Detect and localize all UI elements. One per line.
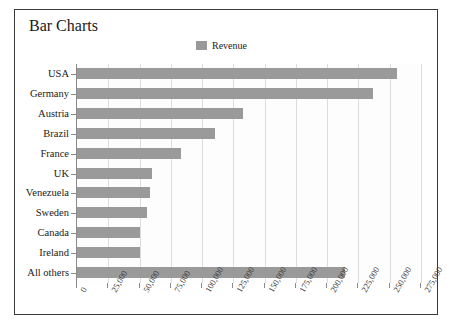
- y-axis-label-usa: USA: [48, 64, 69, 84]
- y-axis-label-venezuela: Venezuela: [26, 183, 69, 203]
- bar-row: [77, 223, 420, 243]
- y-axis-label-all-others: All others: [27, 263, 69, 283]
- legend-label-revenue: Revenue: [212, 40, 247, 51]
- bar-row: [77, 164, 420, 184]
- bar-row: [77, 84, 420, 104]
- y-axis-label-canada: Canada: [38, 223, 70, 243]
- bars-container: [77, 64, 420, 283]
- gridline: [421, 64, 422, 283]
- x-axis-tick: [232, 283, 233, 288]
- bar-row: [77, 144, 420, 164]
- bar-row: [77, 243, 420, 263]
- bar-uk[interactable]: [77, 168, 152, 179]
- bar-row: [77, 64, 420, 84]
- x-axis-tick: [295, 283, 296, 288]
- chart-frame: Bar Charts Revenue USAGermanyAustriaBraz…: [14, 9, 438, 315]
- bar-canada[interactable]: [77, 227, 140, 238]
- y-axis-label-germany: Germany: [30, 84, 69, 104]
- chart-legend: Revenue: [196, 40, 247, 51]
- y-axis-label-sweden: Sweden: [36, 203, 69, 223]
- x-axis-tick: [201, 283, 202, 288]
- bar-germany[interactable]: [77, 88, 373, 99]
- bar-row: [77, 104, 420, 124]
- x-axis-tick: [170, 283, 171, 288]
- bar-venezuela[interactable]: [77, 187, 150, 198]
- bar-austria[interactable]: [77, 108, 243, 119]
- x-axis-tick: [139, 283, 140, 288]
- plot-area: [76, 64, 420, 283]
- y-axis-labels: USAGermanyAustriaBrazilFranceUKVenezuela…: [15, 64, 73, 283]
- x-axis-labels: 025,00050,00075,000100,000125,000150,000…: [76, 289, 420, 329]
- x-axis-tick: [420, 283, 421, 288]
- x-axis-tick: [76, 283, 77, 288]
- bar-row: [77, 124, 420, 144]
- x-axis-tick: [357, 283, 358, 288]
- bar-row: [77, 183, 420, 203]
- y-axis-label-brazil: Brazil: [43, 124, 69, 144]
- y-axis-label-france: France: [40, 144, 69, 164]
- bar-sweden[interactable]: [77, 207, 147, 218]
- bar-ireland[interactable]: [77, 247, 140, 258]
- x-axis-tick: [326, 283, 327, 288]
- page-title: Bar Charts: [29, 17, 98, 35]
- y-axis-label-ireland: Ireland: [39, 243, 69, 263]
- y-axis-label-uk: UK: [54, 164, 69, 184]
- bar-france[interactable]: [77, 148, 181, 159]
- legend-swatch-revenue: [196, 41, 207, 50]
- y-axis-label-austria: Austria: [38, 104, 69, 124]
- x-axis-tick: [107, 283, 108, 288]
- bar-brazil[interactable]: [77, 128, 215, 139]
- bar-row: [77, 203, 420, 223]
- bar-usa[interactable]: [77, 68, 397, 79]
- x-axis-label: 275,000: [422, 265, 444, 294]
- x-axis-tick: [389, 283, 390, 288]
- x-axis-tick: [264, 283, 265, 288]
